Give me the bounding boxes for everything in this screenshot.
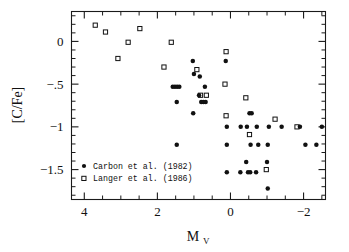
- data-point-filled-circle: [203, 100, 208, 105]
- y-tick-label: −.5: [46, 77, 63, 92]
- data-point-filled-circle: [223, 59, 228, 64]
- data-point-filled-circle: [175, 100, 180, 105]
- data-point-open-square: [103, 30, 107, 34]
- y-tick-label: 0: [57, 34, 64, 49]
- data-point-filled-circle: [255, 125, 260, 130]
- x-axis-title: M V: [187, 229, 210, 246]
- legend-label-langer: Langer et al. (1986): [93, 174, 193, 183]
- data-point-filled-circle: [248, 170, 253, 175]
- data-point-open-square: [224, 50, 228, 54]
- scatter-plot-figure: 420−2 0−.5−1−1.5 M V [C/Fe] Carbon et al…: [0, 0, 349, 252]
- data-point-filled-circle: [320, 125, 325, 130]
- data-point-open-square: [204, 93, 208, 97]
- data-point-filled-circle: [191, 111, 196, 116]
- legend-marker-open-square: [82, 176, 86, 180]
- data-point-filled-circle: [265, 160, 270, 165]
- data-point-filled-circle: [266, 186, 271, 191]
- data-point-open-square: [162, 65, 166, 69]
- legend-marker-filled-circle: [82, 164, 86, 168]
- data-point-filled-circle: [279, 125, 284, 130]
- x-tick-label: 4: [81, 204, 88, 219]
- data-point-open-square: [169, 40, 173, 44]
- y-axis-title: [C/Fe]: [10, 87, 25, 124]
- data-point-open-square: [223, 82, 227, 86]
- plot-canvas: 420−2 0−.5−1−1.5 M V [C/Fe] Carbon et al…: [0, 0, 349, 252]
- data-point-open-square: [126, 40, 130, 44]
- plot-frame: [72, 12, 326, 200]
- legend: Carbon et al. (1982) Langer et al. (1986…: [82, 162, 193, 183]
- data-point-filled-circle: [238, 170, 243, 175]
- data-point-filled-circle: [314, 143, 319, 148]
- data-point-filled-circle: [266, 143, 271, 148]
- data-point-open-square: [264, 167, 268, 171]
- data-point-filled-circle: [192, 72, 197, 77]
- data-point-filled-circle: [238, 125, 243, 130]
- data-point-filled-circle: [203, 84, 208, 89]
- data-series-langer: [93, 23, 299, 172]
- data-point-open-square: [138, 26, 142, 30]
- data-point-filled-circle: [256, 143, 261, 148]
- data-point-filled-circle: [248, 143, 253, 148]
- x-tick-label: 0: [227, 204, 234, 219]
- data-point-filled-circle: [191, 59, 196, 64]
- data-point-open-square: [116, 56, 120, 60]
- x-axis-tick-labels: 420−2: [81, 204, 310, 219]
- x-tick-label: −2: [297, 204, 311, 219]
- data-point-filled-circle: [177, 84, 182, 89]
- data-point-open-square: [244, 96, 248, 100]
- data-series-carbon: [170, 59, 324, 191]
- x-axis-title-subscript: V: [203, 236, 210, 246]
- data-point-open-square: [195, 68, 199, 72]
- data-point-filled-circle: [225, 170, 230, 175]
- data-point-open-square: [93, 23, 97, 27]
- data-point-open-square: [273, 117, 277, 121]
- data-point-filled-circle: [254, 170, 259, 175]
- y-tick-label: −1.5: [40, 162, 64, 177]
- data-point-filled-circle: [303, 143, 308, 148]
- data-point-open-square: [247, 132, 251, 136]
- y-axis-tick-labels: 0−.5−1−1.5: [40, 34, 64, 177]
- y-axis-title-label: [C/Fe]: [10, 87, 25, 124]
- x-axis-ticks: [84, 12, 322, 200]
- data-point-open-square: [224, 114, 228, 118]
- x-axis-title-main: M: [187, 229, 200, 244]
- data-point-filled-circle: [267, 125, 272, 130]
- x-tick-label: 2: [154, 204, 161, 219]
- data-point-filled-circle: [225, 125, 230, 130]
- data-point-filled-circle: [298, 125, 303, 130]
- data-point-filled-circle: [197, 93, 202, 98]
- data-point-filled-circle: [175, 143, 180, 148]
- y-tick-label: −1: [50, 119, 64, 134]
- data-point-filled-circle: [198, 74, 203, 79]
- legend-label-carbon: Carbon et al. (1982): [93, 162, 193, 171]
- data-point-filled-circle: [244, 160, 249, 165]
- data-point-filled-circle: [245, 125, 250, 130]
- data-point-filled-circle: [249, 111, 254, 116]
- data-point-filled-circle: [225, 143, 230, 148]
